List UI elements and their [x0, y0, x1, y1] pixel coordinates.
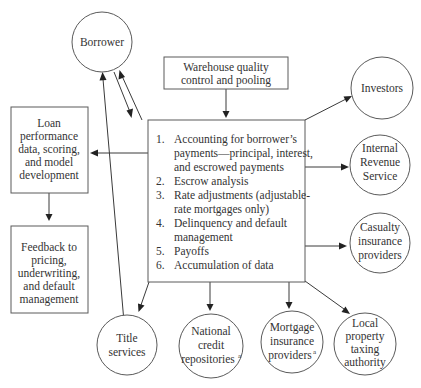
arrowhead-icon [127, 109, 134, 119]
svg-text:rate mortgages only): rate mortgages only) [174, 203, 269, 216]
item-number: 2. [156, 175, 165, 187]
svg-text:National: National [191, 325, 231, 337]
loan-performance-box: Loan performance data, scoring, and mode… [11, 107, 88, 193]
svg-text:Accounting for borrower’s: Accounting for borrower’s [174, 133, 298, 146]
edge-central-to-investors [305, 98, 348, 120]
svg-text:Local: Local [352, 317, 378, 329]
investors-node: Investors [351, 57, 413, 119]
svg-text:underwriting,: underwriting, [18, 267, 80, 280]
central-servicing-box: 1. Accounting for borrower’s payments—pr… [148, 120, 313, 282]
svg-text:services: services [108, 346, 146, 358]
svg-text:providers: providers [268, 349, 312, 362]
svg-text:management: management [174, 231, 234, 244]
svg-text:repositories: repositories [181, 353, 235, 366]
svg-text:pricing,: pricing, [31, 254, 67, 267]
svg-text:insurance: insurance [270, 335, 314, 347]
mortgage-insurance-node: Mortgage insurance providers a [261, 311, 323, 373]
arrowhead-icon [341, 164, 349, 171]
svg-text:performance: performance [20, 130, 78, 143]
svg-text:Internal: Internal [362, 142, 398, 154]
svg-text:Delinquency and default: Delinquency and default [174, 217, 288, 230]
svg-text:Accumulation of data: Accumulation of data [174, 259, 274, 271]
svg-text:Escrow analysis: Escrow analysis [174, 175, 249, 188]
title-services-node: Title services [97, 315, 157, 375]
servicing-flow-diagram: Warehouse quality control and pooling 1.… [0, 0, 421, 388]
svg-text:data, scoring,: data, scoring, [18, 143, 80, 156]
irs-node: Internal Revenue Service [350, 135, 410, 195]
svg-text:Loan: Loan [37, 117, 61, 129]
item-number: 4. [156, 217, 165, 229]
warehouse-box: Warehouse quality control and pooling [164, 57, 288, 89]
item-number: 1. [156, 133, 165, 145]
svg-text:property: property [346, 330, 385, 343]
edge-central-to-local-tax [305, 281, 344, 309]
svg-text:payments—principal, interest,: payments—principal, interest, [174, 147, 313, 160]
svg-text:Casualty: Casualty [360, 221, 400, 234]
svg-text:Investors: Investors [361, 82, 404, 94]
arrowhead-icon [339, 243, 347, 250]
arrowhead-icon [223, 111, 230, 118]
item-number: 5. [156, 245, 165, 257]
local-tax-authority-node: Local property taxing authority [334, 313, 396, 375]
arrowhead-icon [119, 70, 126, 80]
edge-central-to-title [141, 282, 149, 305]
svg-text:Borrower: Borrower [80, 36, 124, 48]
svg-text:Title: Title [116, 332, 137, 344]
svg-text:Feedback to: Feedback to [21, 241, 77, 253]
arrowhead-icon [138, 304, 145, 313]
edge-title-to-borrower [103, 79, 124, 322]
svg-text:control and pooling: control and pooling [181, 74, 271, 87]
arrowhead-icon [46, 214, 53, 221]
svg-text:credit: credit [198, 339, 225, 351]
svg-text:and model: and model [25, 156, 73, 168]
svg-text:Revenue: Revenue [360, 156, 400, 168]
svg-text:and escrowed payments: and escrowed payments [174, 161, 284, 174]
svg-text:Mortgage: Mortgage [270, 321, 315, 334]
svg-text:Payoffs: Payoffs [174, 245, 209, 258]
svg-text:taxing: taxing [351, 343, 380, 356]
arrowhead-icon [207, 304, 214, 311]
svg-text:insurance: insurance [358, 235, 402, 247]
arrowhead-icon [286, 302, 293, 309]
item-number: 3. [156, 189, 165, 201]
svg-text:management: management [20, 293, 80, 306]
svg-text:Warehouse quality: Warehouse quality [183, 61, 269, 74]
borrower-node: Borrower [72, 12, 132, 72]
svg-text:and default: and default [23, 280, 75, 292]
feedback-box: Feedback to pricing, underwriting, and d… [11, 226, 88, 313]
svg-text:authority: authority [344, 356, 386, 369]
arrowhead-icon [100, 72, 107, 81]
svg-text:development: development [19, 169, 79, 182]
credit-repositories-node: National credit repositories a [179, 314, 243, 378]
item-number: 6. [156, 259, 165, 271]
arrowhead-icon [90, 150, 98, 157]
svg-text:Rate adjustments (adjustable-: Rate adjustments (adjustable- [174, 189, 310, 202]
casualty-insurance-node: Casualty insurance providers [350, 213, 410, 273]
svg-text:Service: Service [363, 170, 397, 182]
svg-text:providers: providers [358, 249, 402, 262]
